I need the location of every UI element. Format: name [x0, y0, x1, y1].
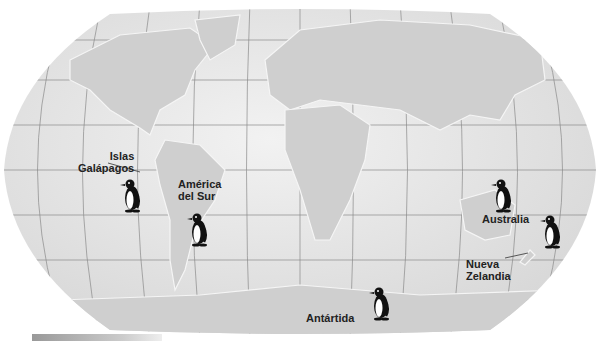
penguin-icon-antarctica — [369, 286, 391, 322]
label-galapagos: Islas Galápagos — [78, 150, 134, 174]
label-line: Galápagos — [78, 162, 134, 174]
label-australia: Australia — [482, 213, 529, 225]
label-line: del Sur — [178, 190, 221, 202]
decorative-bar — [32, 334, 162, 341]
label-antarctica: Antártida — [306, 312, 354, 324]
penguin-icon-new-zealand — [540, 214, 562, 250]
label-new-zealand: Nueva Zelandia — [466, 258, 511, 282]
penguin-icon-galapagos — [120, 178, 142, 214]
label-line: Zelandia — [466, 270, 511, 282]
label-south-america: América del Sur — [178, 178, 221, 202]
penguin-icon-australia — [491, 178, 513, 214]
label-line: América — [178, 178, 221, 190]
label-line: Nueva — [466, 258, 511, 270]
penguin-icon-south-america — [187, 212, 209, 248]
label-line: Islas — [78, 150, 134, 162]
